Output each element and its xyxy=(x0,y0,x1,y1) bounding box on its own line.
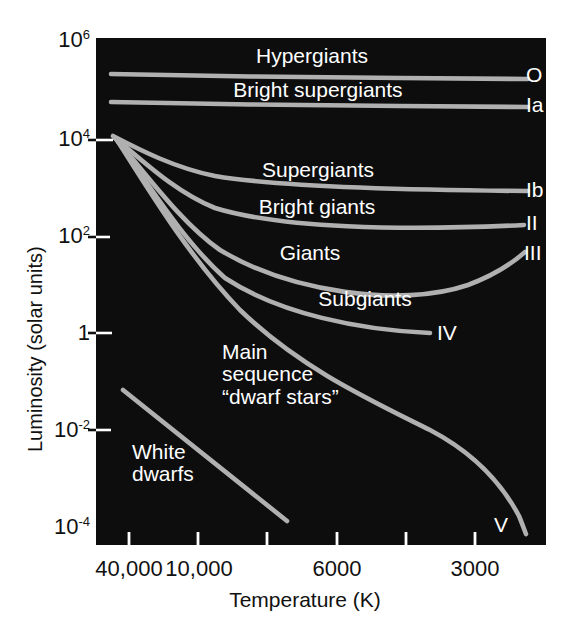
white-dwarfs-line-2: dwarfs xyxy=(132,463,282,485)
white-dwarfs-line-1: White xyxy=(132,441,282,463)
class-label-v: V xyxy=(494,513,508,537)
class-label-iii: III xyxy=(524,241,542,265)
main-sequence-line-1: Main xyxy=(222,341,402,363)
region-label-bright-supergiants: Bright supergiants xyxy=(198,78,438,102)
class-label-ia: Ia xyxy=(526,93,544,117)
x-axis-ticks xyxy=(129,532,475,545)
y-axis-ticks xyxy=(96,140,113,430)
class-label-o: O xyxy=(526,63,542,87)
y-axis-ticks-outer xyxy=(88,140,96,430)
region-label-hypergiants: Hypergiants xyxy=(222,44,402,68)
region-label-main-sequence: Main sequence “dwarf stars” xyxy=(222,341,402,408)
region-label-giants: Giants xyxy=(250,241,370,265)
class-label-ib: Ib xyxy=(526,178,544,202)
region-label-bright-giants: Bright giants xyxy=(222,195,412,219)
region-label-supergiants: Supergiants xyxy=(228,158,408,182)
curve-ia xyxy=(111,102,528,107)
region-label-white-dwarfs: White dwarfs xyxy=(132,441,282,486)
main-sequence-line-2: sequence xyxy=(222,363,402,385)
class-label-iv: IV xyxy=(437,321,457,345)
region-label-subgiants: Subgiants xyxy=(290,287,440,311)
main-sequence-line-3: “dwarf stars” xyxy=(222,386,402,408)
class-label-ii: II xyxy=(526,211,538,235)
hr-diagram-figure: 106 104 102 1 10-2 10-4 Luminosity (sola… xyxy=(0,0,580,618)
